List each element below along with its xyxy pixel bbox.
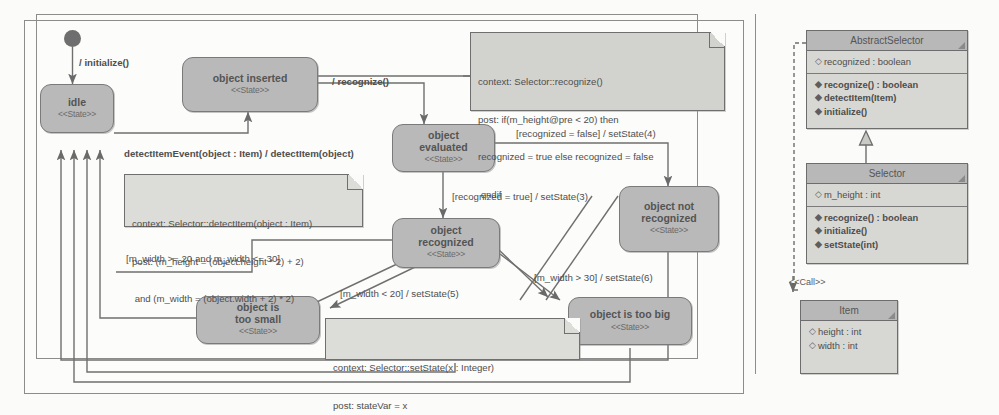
- class-operation-row[interactable]: ◆ recognize() : boolean: [812, 211, 963, 225]
- note-setstate: context: Selector::setState(x : Integer)…: [325, 318, 580, 360]
- op-icon: ◆: [812, 78, 824, 92]
- class-corner-marker: [958, 42, 965, 49]
- class-item[interactable]: Item ◇ height : int ◇ width : int: [800, 300, 898, 374]
- transition-label-detect-item-event: detectItemEvent(object : Item) / detectI…: [124, 148, 354, 159]
- transition-label-recognized-false: [recognized = false] / setState(4): [516, 128, 656, 139]
- note-detectitem-line-1: context: Selector::detectItem(object : I…: [132, 218, 354, 231]
- note-recognize-line-2: post: if(m_height@pre < 20) then: [478, 114, 716, 127]
- attr-icon: ◇: [812, 55, 824, 69]
- state-object-inserted[interactable]: object inserted <<State>>: [182, 57, 318, 112]
- state-object-is-too-big-name-line1: object is too big: [587, 309, 674, 321]
- class-attribute-row[interactable]: ◇ height : int: [806, 325, 893, 339]
- class-header: AbstractSelector: [807, 31, 967, 51]
- class-corner-marker: [958, 175, 965, 182]
- state-idle-name: idle: [65, 97, 89, 109]
- class-corner-marker: [888, 312, 895, 319]
- op-icon: ◆: [812, 91, 824, 105]
- class-operation-row[interactable]: ◆ recognize() : boolean: [812, 78, 963, 92]
- state-object-evaluated-name-line2: evaluated: [416, 142, 470, 154]
- operation-text: recognize() : boolean: [824, 211, 918, 225]
- state-object-is-too-big-stereotype: <<State>>: [611, 322, 649, 334]
- class-attribute-row[interactable]: ◇ m_height : int: [812, 188, 963, 202]
- state-object-not-recognized-stereotype: <<State>>: [650, 225, 688, 237]
- attr-icon: ◇: [812, 188, 824, 202]
- class-header: Selector: [807, 164, 967, 184]
- state-object-not-recognized-name-line2: recognized: [638, 213, 699, 225]
- state-object-recognized[interactable]: object recognized <<State>>: [392, 218, 500, 268]
- state-idle-stereotype: <<State>>: [58, 109, 96, 121]
- state-object-evaluated-stereotype: <<State>>: [425, 154, 463, 166]
- op-icon: ◆: [812, 105, 824, 119]
- class-selector-name: Selector: [869, 168, 906, 179]
- class-operation-row[interactable]: ◆ initialize(): [812, 224, 963, 238]
- operation-text: initialize(): [824, 105, 867, 119]
- class-attribute-row[interactable]: ◇ recognized : boolean: [812, 55, 963, 69]
- operation-text: recognize() : boolean: [824, 78, 918, 92]
- note-setstate-line-2: post: stateVar = x: [333, 400, 571, 413]
- note-fold-corner: [709, 32, 725, 48]
- note-fold-corner: [564, 318, 580, 334]
- transition-label-recognized-true: [recognized = true] / setState(3): [452, 191, 588, 202]
- operation-text: setState(int): [824, 238, 878, 252]
- note-detectitem-line-3: and (m_width = (object.width + 2) * 2): [132, 293, 354, 306]
- transition-label-recognize: / recognize(): [332, 76, 389, 87]
- op-icon: ◆: [812, 238, 824, 252]
- transition-label-width-lt-20: [m_width < 20] / setState(5): [340, 288, 459, 299]
- attr-icon: ◇: [806, 339, 818, 353]
- note-fold-corner: [347, 174, 363, 190]
- attribute-text: m_height : int: [824, 188, 880, 202]
- class-selector[interactable]: Selector ◇ m_height : int ◆ recognize() …: [806, 163, 968, 264]
- initial-state: [64, 30, 81, 47]
- class-operations-compartment: ◆ recognize() : boolean ◆ initialize() ◆…: [807, 206, 967, 256]
- note-recognize: context: Selector::recognize() post: if(…: [470, 32, 725, 111]
- attribute-text: width : int: [818, 339, 858, 353]
- class-item-name: Item: [839, 305, 858, 316]
- class-abstract-selector[interactable]: AbstractSelector ◇ recognized : boolean …: [806, 30, 968, 129]
- class-header: Item: [801, 301, 897, 321]
- operation-text: detectItem(Item): [824, 91, 896, 105]
- state-object-is-too-big[interactable]: object is too big <<State>>: [568, 297, 692, 345]
- class-attributes-compartment: ◇ height : int ◇ width : int: [801, 321, 897, 356]
- class-operations-compartment: ◆ recognize() : boolean ◆ detectItem(Ite…: [807, 73, 967, 123]
- transition-label-width-in-range: [m_width >= 20 and m_width <= 30]: [126, 253, 280, 264]
- class-operation-row[interactable]: ◆ initialize(): [812, 105, 963, 119]
- transition-label-width-gt-30: [m_width > 30] / setState(6): [534, 272, 653, 283]
- attr-icon: ◇: [806, 325, 818, 339]
- class-operation-row[interactable]: ◆ detectItem(Item): [812, 91, 963, 105]
- state-object-inserted-stereotype: <<State>>: [231, 85, 269, 97]
- class-attribute-row[interactable]: ◇ width : int: [806, 339, 893, 353]
- class-attributes-compartment: ◇ m_height : int: [807, 184, 967, 206]
- state-idle[interactable]: idle <<State>>: [40, 84, 114, 133]
- class-attributes-compartment: ◇ recognized : boolean: [807, 51, 967, 73]
- state-object-recognized-name-line2: recognized: [415, 237, 476, 249]
- state-object-inserted-name: object inserted: [210, 73, 291, 85]
- note-detectitem: context: Selector::detectItem(object : I…: [124, 174, 363, 227]
- op-icon: ◆: [812, 211, 824, 225]
- attribute-text: recognized : boolean: [824, 55, 911, 69]
- transition-label-initialize: / initialize(): [79, 57, 129, 68]
- note-recognize-line-1: context: Selector::recognize(): [478, 76, 716, 89]
- op-icon: ◆: [812, 224, 824, 238]
- attribute-text: height : int: [818, 325, 861, 339]
- note-recognize-line-3: recognized = true else recognized = fals…: [478, 151, 716, 164]
- diagram-divider: [755, 14, 756, 374]
- state-object-recognized-stereotype: <<State>>: [427, 249, 465, 261]
- class-abstract-selector-name: AbstractSelector: [850, 35, 923, 46]
- state-object-is-too-small-stereotype: <<State>>: [239, 326, 277, 338]
- note-setstate-line-1: context: Selector::setState(x : Integer): [333, 362, 571, 375]
- dependency-stereotype-label: <<Call>>: [789, 277, 826, 287]
- operation-text: initialize(): [824, 224, 867, 238]
- class-operation-row[interactable]: ◆ setState(int): [812, 238, 963, 252]
